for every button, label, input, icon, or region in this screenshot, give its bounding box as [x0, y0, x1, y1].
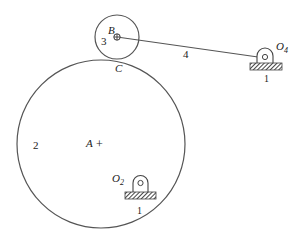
- label-ground-1-bottom: 1: [137, 205, 142, 216]
- label-O2: O2: [112, 172, 124, 187]
- label-ground-1-right: 1: [264, 73, 269, 84]
- label-O4: O4: [276, 40, 288, 55]
- mechanism-diagram: B 3 C 4 O4 1 2 A + O2 1: [0, 0, 301, 242]
- label-A-center-mark: +: [96, 137, 103, 151]
- label-O2-sub: 2: [120, 178, 124, 187]
- label-O4-main: O: [276, 40, 284, 52]
- label-O2-main: O: [112, 172, 120, 184]
- link-4: [117, 37, 265, 58]
- label-3: 3: [101, 35, 107, 47]
- label-4: 4: [183, 48, 189, 60]
- pin-B-icon: [114, 34, 120, 40]
- label-2: 2: [33, 139, 39, 151]
- label-A: A: [85, 137, 93, 149]
- label-O4-sub: 4: [284, 46, 288, 55]
- ground-pivot-O2-icon: [125, 176, 156, 199]
- label-C: C: [115, 62, 123, 74]
- label-B: B: [108, 24, 115, 36]
